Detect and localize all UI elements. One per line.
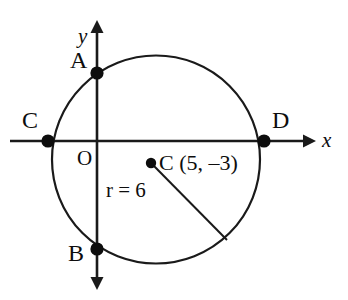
- point-d-label: D: [272, 108, 289, 132]
- origin-label: O: [77, 148, 92, 169]
- point-a-dot: [90, 66, 103, 79]
- radius-label: r = 6: [106, 180, 146, 201]
- x-axis-arrowhead-right: [303, 135, 316, 148]
- point-c-left-dot: [41, 134, 54, 147]
- x-axis-label: x: [322, 130, 331, 151]
- y-axis-arrowhead-down: [91, 277, 104, 290]
- y-axis-arrowhead-up: [91, 20, 104, 33]
- point-b-label: B: [68, 241, 84, 265]
- radius-line: [153, 165, 227, 240]
- point-c-left-label: C: [22, 108, 38, 132]
- point-a-label: A: [70, 48, 87, 72]
- y-axis-label: y: [78, 26, 87, 47]
- point-b-dot: [90, 242, 103, 255]
- circle-center-dot: [146, 158, 156, 168]
- circle-center-label: C (5, –3): [159, 152, 238, 174]
- geometry-figure: y x A B C D O C (5, –3) r = 6: [0, 0, 348, 300]
- point-d-dot: [257, 134, 270, 147]
